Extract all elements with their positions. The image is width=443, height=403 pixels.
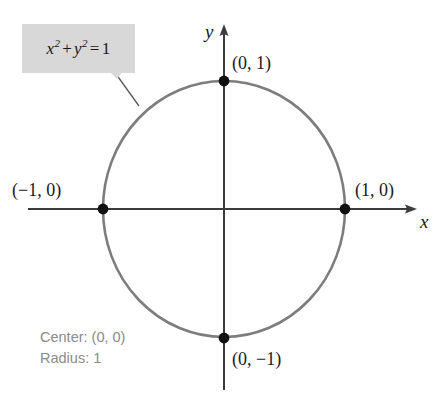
caption-radius: Radius: 1	[40, 351, 101, 366]
equation-operator-plus: +	[60, 39, 74, 59]
point-marker-top	[219, 76, 230, 87]
equation-text: x2+y2=1	[22, 24, 135, 73]
y-axis-label: y	[205, 22, 213, 41]
point-label-right: (1, 0)	[355, 181, 394, 199]
x-axis-label: x	[420, 212, 428, 231]
equation-term-y: y2	[74, 39, 88, 59]
point-label-bottom: (0, −1)	[232, 350, 281, 368]
point-marker-left	[98, 204, 109, 215]
point-label-left: (−1, 0)	[12, 181, 61, 199]
equation-right-side: 1	[102, 39, 111, 59]
point-marker-bottom	[219, 333, 230, 344]
point-label-top: (0, 1)	[232, 54, 271, 72]
equation-term-x: x2	[47, 39, 61, 59]
point-marker-right	[340, 204, 351, 215]
equation-equals-sign: =	[88, 39, 102, 59]
caption-center: Center: (0, 0)	[40, 330, 125, 345]
equation-callout-box: x2+y2=1	[22, 24, 135, 73]
